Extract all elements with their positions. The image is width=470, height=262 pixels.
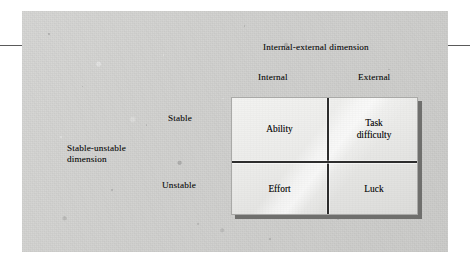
rule-right [446,45,470,46]
internal-external-dimension-title: Internal-external dimension [263,42,369,53]
matrix-cell-task-difficulty: Task difficulty [329,98,418,161]
axis-label-stable: Stable [168,113,192,124]
matrix-box: Ability Task difficulty Effort Luck [231,97,418,215]
matrix-vertical-divider [327,98,329,215]
axis-label-internal: Internal [258,72,288,83]
matrix-cell-effort: Effort [232,163,327,215]
matrix-cell-luck: Luck [329,163,418,215]
axis-label-external: External [358,72,390,83]
axis-label-unstable: Unstable [162,180,196,191]
stable-unstable-dimension-title: Stable-unstable dimension [67,143,126,165]
matrix-cell-ability: Ability [232,98,327,161]
rule-left [0,45,24,46]
figure-panel: Internal-external dimension Internal Ext… [22,11,448,252]
matrix-horizontal-divider [232,161,418,163]
attribution-matrix: Ability Task difficulty Effort Luck [231,97,422,219]
